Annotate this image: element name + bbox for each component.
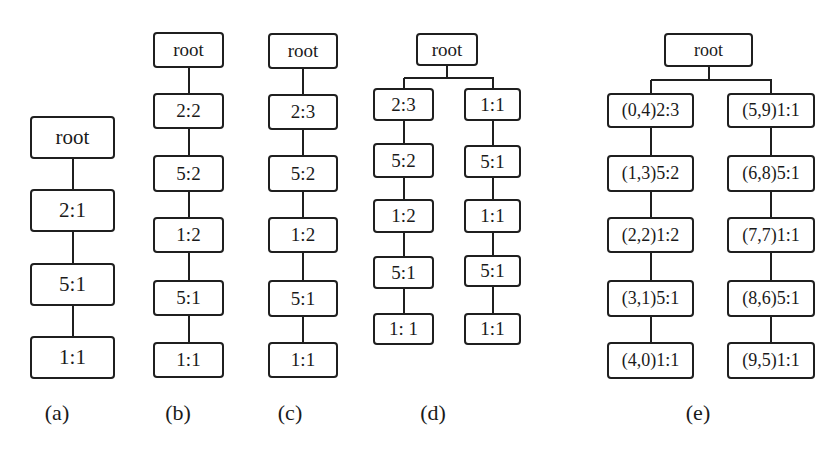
panel-d-caption: (d) — [420, 400, 446, 426]
panel-d-tree-node: 5:1 — [464, 145, 521, 178]
connector-line — [650, 80, 652, 93]
connector-line — [302, 192, 304, 217]
connector-line — [770, 128, 772, 155]
panel-c-caption: (c) — [278, 400, 302, 426]
connector-line — [403, 289, 405, 313]
connector-line — [403, 233, 405, 256]
connector-line — [188, 129, 190, 155]
panel-e-tree-node: (3,1)5:1 — [607, 280, 694, 317]
panel-d-tree-node: 5:1 — [464, 255, 521, 287]
panel-c-tree-node: 2:3 — [268, 94, 338, 130]
connector-line — [650, 253, 652, 280]
connector-line — [770, 317, 772, 342]
connector-line — [492, 121, 494, 145]
connector-line — [302, 253, 304, 280]
connector-line — [492, 178, 494, 199]
connector-line — [302, 317, 304, 342]
panel-a-root-node: root — [30, 116, 115, 159]
panel-e-tree-node: (1,3)5:2 — [607, 155, 694, 192]
panel-e-tree-node: (4,0)1:1 — [607, 342, 694, 379]
panel-b-tree-node: 5:2 — [153, 155, 224, 192]
panel-a-tree-node: 1:1 — [30, 336, 115, 379]
connector-line — [72, 232, 74, 263]
connector-line — [650, 128, 652, 155]
panel-a-caption: (a) — [45, 400, 69, 426]
panel-c-tree-node: 5:2 — [268, 155, 338, 192]
panel-e-caption: (e) — [686, 400, 710, 426]
connector-line — [188, 253, 190, 280]
connector-line — [404, 77, 494, 79]
connector-line — [492, 78, 494, 88]
connector-line — [403, 78, 405, 88]
panel-d-tree-node: 1:1 — [464, 199, 521, 233]
panel-b-caption: (b) — [165, 400, 191, 426]
connector-line — [651, 79, 773, 81]
panel-b-tree-node: 1:2 — [153, 217, 224, 253]
connector-line — [492, 287, 494, 313]
connector-line — [650, 317, 652, 342]
panel-a-tree-node: 5:1 — [30, 263, 115, 306]
panel-d-tree-node: 2:3 — [373, 88, 434, 121]
panel-b-root-node: root — [153, 32, 224, 68]
connector-line — [770, 253, 772, 280]
panel-c-tree-node: 1:2 — [268, 217, 338, 253]
panel-d-tree-node: 5:1 — [373, 256, 434, 289]
panel-d-tree-node: 1:1 — [464, 313, 521, 345]
panel-c-tree-node: 1:1 — [268, 342, 338, 378]
panel-d-tree-node: 1:1 — [464, 88, 521, 121]
connector-line — [188, 192, 190, 217]
panel-e-root-node: root — [664, 33, 753, 67]
connector-line — [72, 159, 74, 189]
connector-line — [770, 192, 772, 217]
connector-line — [492, 233, 494, 255]
panel-e-tree-node: (2,2)1:2 — [607, 217, 694, 253]
connector-line — [403, 178, 405, 199]
connector-line — [302, 130, 304, 155]
connector-line — [770, 80, 772, 93]
panel-e-tree-node: (8,6)5:1 — [727, 280, 815, 317]
panel-b-tree-node: 1:1 — [153, 342, 224, 378]
panel-c-tree-node: 5:1 — [268, 280, 338, 317]
panel-c-root-node: root — [268, 33, 338, 69]
panel-e-tree-node: (5,9)1:1 — [727, 93, 815, 128]
panel-e-tree-node: (7,7)1:1 — [727, 217, 815, 253]
panel-e-tree-node: (6,8)5:1 — [727, 155, 815, 192]
tree-diagram-figure: root2:15:11:1(a)root2:25:21:25:11:1(b)ro… — [0, 0, 838, 451]
panel-a-tree-node: 2:1 — [30, 189, 115, 232]
connector-line — [650, 192, 652, 217]
connector-line — [403, 121, 405, 143]
panel-b-tree-node: 5:1 — [153, 280, 224, 316]
panel-e-tree-node: (9,5)1:1 — [727, 342, 815, 379]
connector-line — [188, 316, 190, 342]
panel-d-root-node: root — [416, 33, 478, 66]
connector-line — [188, 68, 190, 93]
connector-line — [72, 306, 74, 336]
panel-d-tree-node: 1: 1 — [373, 313, 434, 345]
connector-line — [302, 69, 304, 94]
panel-d-tree-node: 5:2 — [373, 143, 434, 178]
panel-e-tree-node: (0,4)2:3 — [607, 93, 694, 128]
panel-d-tree-node: 1:2 — [373, 199, 434, 233]
panel-b-tree-node: 2:2 — [153, 93, 224, 129]
